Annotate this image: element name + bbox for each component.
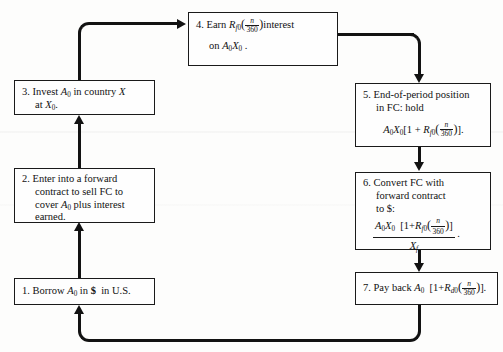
flowchart-box-7[interactable]: 7. Pay back A0 [1+Rd0(n360)]. [355, 272, 498, 305]
box3-text-at: at [35, 99, 43, 110]
box4-text-earn: Earn [207, 19, 227, 30]
connector-box3-to-box4-horizontal [93, 22, 178, 25]
box4-text-interest: interest [263, 19, 294, 30]
flowchart-box-6[interactable]: 6. Convert FC with forward contract to $… [355, 172, 491, 250]
connector-box2-to-box3 [78, 124, 81, 168]
box2-text-enter: Enter into a forward [33, 173, 118, 184]
box1-text-in: in [80, 285, 88, 296]
box1-currency-symbol: $ [91, 285, 96, 296]
flowchart-box-4[interactable]: 4. Earn Rf0(n360)interest on A0X0 . [188, 12, 338, 66]
box2-line1: 2. Enter into a forward [22, 173, 148, 186]
flowchart-box-3[interactable]: 3. Invest A0 in country X at X0. [14, 80, 155, 115]
box2-line3: cover A0 plus interest [22, 199, 148, 212]
arrowhead-up-box3 [74, 115, 84, 124]
connector-box7-down-segment [418, 305, 421, 328]
box3-text-invest: Invest [33, 86, 59, 97]
box1-line1: 1. Borrow A0 in $ in U.S. [22, 285, 148, 298]
box3-line2: at X0. [22, 99, 148, 112]
arrowhead-right-box4 [177, 19, 186, 29]
box1-text-inus: in U.S. [101, 285, 130, 296]
box2-line4: earned. [22, 211, 148, 224]
arrowhead-up-box1 [74, 305, 84, 314]
box4-line1: 4. Earn Rf0(n360)interest [196, 17, 331, 34]
box5-line2: in FC: hold [363, 102, 484, 115]
box4-line2: on A0X0 . [196, 40, 331, 53]
box3-line1: 3. Invest A0 in country X [22, 86, 148, 99]
box2-line2: contract to sell FC to [22, 186, 148, 199]
box2-number: 2. [22, 173, 30, 186]
box1-text-borrow: Borrow [33, 285, 65, 296]
box5-text-endofperiod: End-of-period position [374, 89, 470, 100]
arrowhead-down-box7 [414, 263, 424, 272]
box3-text-in: in [73, 86, 81, 97]
connector-box4-to-box5-horizontal [338, 33, 414, 36]
connector-box1-to-box2 [78, 231, 81, 278]
flowchart-canvas: 4. Earn Rf0(n360)interest on A0X0 . 3. I… [0, 0, 503, 352]
box4-text-on: on [209, 40, 220, 51]
box6-line3: to $: [363, 203, 484, 216]
box4-fraction: n360 [245, 17, 258, 33]
arrowhead-down-box6 [414, 162, 424, 171]
box3-text-country: country [84, 86, 116, 97]
box6-formula: A0X0 [1+Rf0(n360)] Xf . [363, 217, 484, 252]
flowchart-box-2[interactable]: 2. Enter into a forward contract to sell… [14, 168, 155, 223]
box4-number: 4. [196, 19, 204, 32]
box5-number: 5. [363, 89, 371, 102]
box6-line2: forward contract [363, 190, 484, 203]
box6-text-convert: Convert FC with [374, 177, 445, 188]
connector-box5-down-segment [418, 50, 421, 75]
box6-number: 6. [363, 177, 371, 190]
box7-text-payback: Pay back [374, 282, 412, 293]
box2-text-plus: plus interest [74, 199, 125, 210]
connector-bottom-return-horizontal [92, 339, 407, 342]
connector-box1-up-segment [78, 313, 81, 329]
connector-box3-up-segment [78, 40, 81, 80]
arrowhead-down-box5 [414, 74, 424, 83]
flowchart-box-5[interactable]: 5. End-of-period position in FC: hold A0… [355, 83, 491, 147]
flowchart-box-1[interactable]: 1. Borrow A0 in $ in U.S. [14, 278, 155, 305]
box1-number: 1. [22, 285, 30, 298]
connector-corner-bottom-right [405, 326, 421, 342]
box7-number: 7. [363, 282, 371, 295]
box6-line1: 6. Convert FC with [363, 177, 484, 190]
connector-box5-to-box6 [418, 147, 421, 163]
box5-line1: 5. End-of-period position [363, 89, 484, 102]
box5-formula: A0X0[1 + Rf0(n360)]. [363, 122, 484, 139]
box7-line1: 7. Pay back A0 [1+Rd0(n360)]. [363, 280, 491, 297]
connector-corner-top-left [78, 22, 94, 41]
box3-number: 3. [22, 86, 30, 99]
box2-text-cover: cover [35, 199, 58, 210]
